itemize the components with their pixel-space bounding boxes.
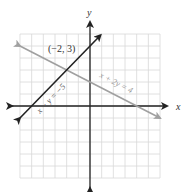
coordinate-plane: x y (−2, 3) x − y = −5 x + 2y = 4 [0,0,189,192]
line2-label: x + 2y = 4 [97,69,135,95]
point-label: (−2, 3) [48,43,75,55]
x-axis-label: x [175,101,181,112]
y-axis-label: y [86,7,92,18]
